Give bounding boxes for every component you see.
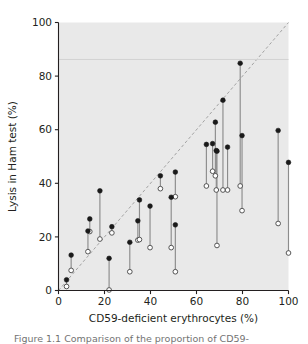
open-circle-marker	[69, 268, 74, 273]
filled-circle-marker	[69, 253, 74, 258]
open-circle-marker	[215, 243, 220, 248]
filled-circle-marker	[158, 173, 163, 178]
scatter-plot-svg: 020406080100 020406080100 CD59-deficient…	[0, 0, 308, 344]
x-tick-label: 20	[98, 295, 111, 307]
filled-circle-marker	[221, 98, 226, 103]
y-axis-title: Lysis in Ham test (%)	[6, 101, 18, 212]
filled-circle-marker	[215, 149, 220, 154]
open-circle-marker	[86, 249, 91, 254]
filled-circle-marker	[210, 141, 215, 146]
y-tick-label: 40	[39, 177, 52, 189]
filled-circle-marker	[225, 145, 230, 150]
open-circle-marker	[276, 221, 281, 226]
filled-circle-marker	[87, 217, 92, 222]
filled-circle-marker	[148, 204, 153, 209]
filled-circle-marker	[127, 240, 132, 245]
filled-circle-marker	[107, 256, 112, 261]
open-circle-marker	[158, 186, 163, 191]
x-tick-label: 100	[278, 295, 298, 307]
open-circle-marker	[204, 184, 209, 189]
x-tick-label: 0	[55, 295, 62, 307]
open-circle-marker	[210, 169, 215, 174]
open-circle-marker	[238, 184, 243, 189]
x-tick-label: 60	[190, 295, 203, 307]
filled-circle-marker	[169, 195, 174, 200]
open-circle-marker	[127, 269, 132, 274]
x-tick-label: 40	[144, 295, 157, 307]
filled-circle-marker	[204, 142, 209, 147]
filled-circle-marker	[240, 133, 245, 138]
filled-circle-marker	[173, 222, 178, 227]
open-circle-marker	[169, 245, 174, 250]
filled-circle-marker	[276, 128, 281, 133]
filled-circle-marker	[98, 188, 103, 193]
open-circle-marker	[213, 173, 218, 178]
open-circle-marker	[286, 251, 291, 256]
open-circle-marker	[98, 237, 103, 242]
open-circle-marker	[148, 245, 153, 250]
open-circle-marker	[214, 188, 219, 193]
filled-circle-marker	[136, 218, 141, 223]
y-tick-label: 100	[32, 16, 52, 28]
x-tick-label: 80	[236, 295, 249, 307]
y-tick-label: 20	[39, 231, 52, 243]
open-circle-marker	[240, 208, 245, 213]
y-tick-label: 80	[39, 70, 52, 82]
filled-circle-marker	[86, 229, 91, 234]
filled-circle-marker	[238, 61, 243, 66]
filled-circle-marker	[64, 277, 69, 282]
open-circle-marker	[221, 188, 226, 193]
filled-circle-marker	[286, 160, 291, 165]
filled-circle-marker	[110, 224, 115, 229]
open-circle-marker	[110, 231, 115, 236]
figure-scatter-plot: 020406080100 020406080100 CD59-deficient…	[0, 0, 308, 344]
filled-circle-marker	[137, 198, 142, 203]
open-circle-marker	[137, 237, 142, 242]
y-tick-label: 0	[45, 284, 52, 296]
figure-caption: Figure 1.1 Comparison of the proportion …	[14, 334, 249, 344]
filled-circle-marker	[173, 170, 178, 175]
y-tick-label: 60	[39, 123, 52, 135]
open-circle-marker	[225, 188, 230, 193]
filled-circle-marker	[213, 120, 218, 125]
figure-caption-strip: Figure 1.1 Comparison of the proportion …	[0, 334, 308, 344]
open-circle-marker	[173, 269, 178, 274]
x-axis-title: CD59-deficient erythrocytes (%)	[89, 312, 258, 324]
open-circle-marker	[64, 284, 69, 289]
